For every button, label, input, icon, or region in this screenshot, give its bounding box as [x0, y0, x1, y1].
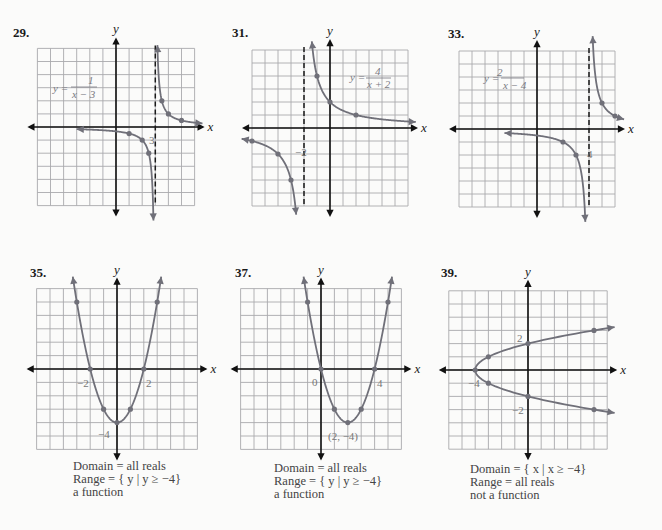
data-point: [74, 299, 79, 304]
tick-label-35-neg2: −2: [77, 377, 89, 389]
data-point: [525, 394, 530, 399]
graph-29: xy: [27, 21, 213, 220]
problem-number-39: 39.: [441, 265, 457, 280]
equation-29: y = 1 x − 3: [52, 74, 97, 100]
svg-text:x + 2: x + 2: [366, 78, 391, 90]
asymptote-label-31: −2: [295, 146, 307, 158]
axes-31: xy: [242, 23, 427, 217]
svg-text:y =: y =: [52, 82, 68, 94]
data-point: [114, 420, 119, 425]
y-axis-label: y: [111, 21, 119, 36]
svg-text:x − 4: x − 4: [502, 79, 527, 91]
data-point: [486, 381, 491, 386]
data-point: [473, 367, 478, 372]
data-point: [591, 407, 596, 412]
curve: [505, 133, 586, 222]
caption-37: Domain = all reals Range = { y | y ≥ −4}…: [274, 462, 382, 501]
y-axis-label: y: [325, 23, 333, 38]
svg-text:1: 1: [88, 74, 94, 86]
data-point: [275, 151, 280, 156]
data-point: [249, 138, 254, 143]
data-point: [166, 111, 171, 116]
data-point: [353, 112, 358, 117]
y-axis-label: y: [532, 24, 540, 39]
tick-label-39-neg2: −2: [512, 404, 524, 416]
tick-label-35-2: 2: [146, 377, 152, 389]
problem-number-31: 31.: [232, 25, 248, 40]
svg-text:y =: y =: [349, 71, 365, 83]
equation-33: y = 2 x − 4: [483, 66, 527, 91]
graph-35: xy: [27, 262, 217, 461]
problem-number-35: 35.: [30, 265, 46, 280]
problem-number-37: 37.: [235, 265, 251, 280]
data-point: [385, 299, 390, 304]
graph-37: xy: [231, 262, 421, 461]
data-point: [155, 299, 160, 304]
axes-29: xy: [27, 21, 213, 216]
data-point: [591, 328, 596, 333]
textbook-page: 29. 31. 33. 35. 37. 39. xyxyxyxyxyxy y =…: [0, 0, 662, 530]
equation-31: y = 4 x + 2: [349, 65, 391, 90]
tick-label-37-vertex: (2, −4): [328, 430, 358, 443]
data-point: [599, 100, 604, 105]
caption-39: Domain = { x | x ≥ −4} Range = all reals…: [470, 463, 586, 502]
curve: [242, 139, 297, 215]
graph-33: xy: [449, 24, 634, 222]
data-point: [141, 366, 146, 371]
y-axis-label: y: [112, 262, 120, 277]
caption-35-function: a function: [73, 486, 181, 499]
data-point: [372, 366, 377, 371]
y-axis-label: y: [523, 264, 531, 279]
data-point: [318, 366, 323, 371]
axes-35: xy: [27, 262, 217, 461]
data-point: [179, 118, 184, 123]
data-point: [305, 299, 310, 304]
svg-text:x − 3: x − 3: [71, 88, 96, 100]
x-axis-label: x: [207, 119, 214, 134]
tick-label-37-0: 0: [312, 376, 318, 388]
graph-39: xy: [439, 264, 626, 460]
curves-29: [77, 45, 203, 220]
problem-number-33: 33.: [448, 26, 464, 41]
graphs-canvas: 29. 31. 33. 35. 37. 39. xyxyxyxyxyxy y =…: [0, 0, 662, 530]
data-point: [140, 138, 145, 143]
caption-39-function: not a function: [470, 489, 586, 502]
data-point: [146, 151, 151, 156]
data-point: [314, 73, 319, 78]
axes-37: xy: [231, 262, 421, 461]
svg-text:2: 2: [497, 66, 503, 78]
data-point: [327, 99, 332, 104]
tick-label-39-neg4: −4: [468, 377, 480, 389]
tick-label-35-neg4: −4: [98, 428, 110, 440]
axes-33: xy: [449, 24, 634, 218]
tick-label-39-2: 2: [517, 332, 523, 344]
asymptote-label-33: 4: [587, 148, 593, 160]
data-point: [159, 98, 164, 103]
data-point: [345, 420, 350, 425]
curve: [593, 36, 624, 119]
graph-31: xy: [242, 23, 427, 217]
curve: [157, 45, 202, 123]
problem-number-29: 29.: [13, 25, 29, 40]
asymptote-label-29: 3: [149, 134, 155, 146]
data-point: [127, 131, 132, 136]
data-point: [359, 407, 364, 412]
data-point: [573, 152, 578, 157]
data-point: [525, 341, 530, 346]
data-point: [288, 177, 293, 182]
x-axis-label: x: [627, 121, 634, 136]
x-axis-label: x: [420, 120, 427, 135]
data-point: [101, 407, 106, 412]
data-point: [88, 366, 93, 371]
tick-label-37-4: 4: [377, 377, 383, 389]
plots-layer: xyxyxyxyxyxy: [27, 21, 634, 460]
data-point: [332, 407, 337, 412]
data-point: [128, 407, 133, 412]
data-point: [560, 139, 565, 144]
x-axis-label: x: [619, 362, 626, 377]
data-point: [486, 354, 491, 359]
y-axis-label: y: [316, 262, 324, 277]
caption-37-function: a function: [274, 488, 382, 501]
caption-35: Domain = all reals Range = { y | y ≥ −4}…: [73, 460, 181, 499]
data-point: [612, 113, 617, 118]
